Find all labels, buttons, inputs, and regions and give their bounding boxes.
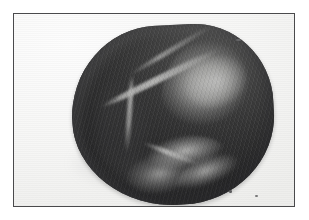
specimen-body [67, 20, 278, 207]
page-canvas: Grayscale photograph of a rounded anatom… [0, 0, 309, 220]
print-speck-top [236, 39, 241, 41]
print-speck-mid [114, 97, 116, 100]
anatomical-specimen [72, 25, 274, 205]
figure-frame: Grayscale photograph of a rounded anatom… [13, 13, 295, 207]
print-speck-lower-b [255, 195, 258, 197]
print-speck-lower-a [229, 190, 232, 193]
